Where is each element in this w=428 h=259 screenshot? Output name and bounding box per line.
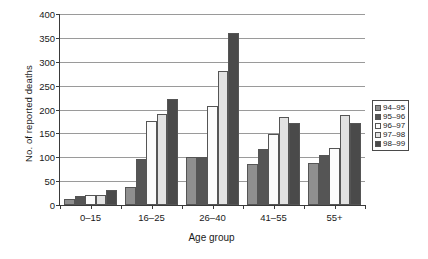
legend-label: 96–97 bbox=[383, 121, 405, 130]
bar bbox=[218, 71, 229, 205]
x-tick-label: 26–40 bbox=[199, 212, 225, 223]
x-tick-label: 16–25 bbox=[138, 212, 164, 223]
bar bbox=[329, 148, 340, 205]
legend-swatch bbox=[375, 141, 381, 147]
legend-swatch bbox=[375, 105, 381, 111]
x-tick-label: 0–15 bbox=[80, 212, 101, 223]
x-tick-mark bbox=[91, 205, 92, 209]
bar bbox=[319, 155, 330, 205]
legend-label: 98–99 bbox=[383, 139, 405, 148]
bar-group bbox=[121, 14, 182, 205]
bar-chart-figure: No. of reported deaths 05010015020025030… bbox=[0, 0, 428, 259]
x-axis-boundary-mark bbox=[304, 205, 305, 209]
y-tick-label: 300 bbox=[39, 56, 55, 67]
x-axis-boundary-mark bbox=[182, 205, 183, 209]
y-tick-label: 250 bbox=[39, 80, 55, 91]
x-tick-mark bbox=[152, 205, 153, 209]
bar bbox=[247, 164, 258, 205]
legend: 94–9595–9696–9797–9898–99 bbox=[372, 100, 409, 151]
x-tick-mark bbox=[213, 205, 214, 209]
bar bbox=[197, 157, 208, 205]
x-tick-mark bbox=[335, 205, 336, 209]
legend-label: 94–95 bbox=[383, 103, 405, 112]
legend-item: 96–97 bbox=[375, 121, 405, 130]
bar bbox=[146, 121, 157, 205]
bar bbox=[157, 114, 168, 205]
bar bbox=[167, 99, 178, 205]
legend-item: 98–99 bbox=[375, 139, 405, 148]
legend-item: 97–98 bbox=[375, 130, 405, 139]
bar bbox=[289, 123, 300, 205]
bar bbox=[96, 195, 107, 206]
bar bbox=[340, 115, 351, 205]
y-tick-label: 150 bbox=[39, 128, 55, 139]
bar bbox=[279, 117, 290, 205]
legend-swatch bbox=[375, 132, 381, 138]
bar-group bbox=[182, 14, 243, 205]
plot-area: 050100150200250300350400 0–1516–2526–404… bbox=[59, 14, 365, 206]
bar bbox=[207, 106, 218, 205]
legend-swatch bbox=[375, 114, 381, 120]
bar bbox=[268, 134, 279, 205]
bar bbox=[75, 196, 86, 205]
bar bbox=[350, 123, 361, 205]
bar bbox=[106, 190, 117, 205]
bar-group bbox=[304, 14, 365, 205]
y-axis-title: No. of reported deaths bbox=[23, 34, 34, 194]
bar bbox=[228, 33, 239, 205]
x-axis-boundary-mark bbox=[121, 205, 122, 209]
bar bbox=[85, 195, 96, 205]
bar-group bbox=[243, 14, 304, 205]
legend-swatch bbox=[375, 123, 381, 129]
x-tick-mark bbox=[274, 205, 275, 209]
x-tick-label: 41–55 bbox=[260, 212, 286, 223]
x-axis-boundary-mark bbox=[60, 205, 61, 209]
x-axis-boundary-mark bbox=[243, 205, 244, 209]
legend-label: 95–96 bbox=[383, 112, 405, 121]
legend-label: 97–98 bbox=[383, 130, 405, 139]
y-tick-label: 200 bbox=[39, 104, 55, 115]
bar bbox=[136, 159, 147, 205]
bar bbox=[125, 187, 136, 205]
x-axis-title: Age group bbox=[59, 232, 364, 243]
bar bbox=[308, 163, 319, 205]
y-tick-label: 50 bbox=[44, 176, 55, 187]
bar-group bbox=[60, 14, 121, 205]
y-tick-label: 400 bbox=[39, 9, 55, 20]
bar bbox=[186, 157, 197, 205]
y-tick-label: 350 bbox=[39, 32, 55, 43]
y-tick-label: 100 bbox=[39, 152, 55, 163]
y-tick-label: 0 bbox=[50, 200, 55, 211]
x-axis-boundary-mark bbox=[365, 205, 366, 209]
bar bbox=[64, 199, 75, 205]
bar bbox=[258, 149, 269, 205]
legend-item: 94–95 bbox=[375, 103, 405, 112]
x-tick-label: 55+ bbox=[326, 212, 342, 223]
legend-item: 95–96 bbox=[375, 112, 405, 121]
bar-groups bbox=[60, 14, 365, 205]
